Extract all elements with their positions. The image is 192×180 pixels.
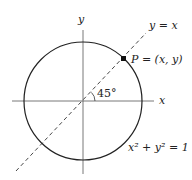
point-p-marker xyxy=(121,56,126,61)
y-axis-label: y xyxy=(77,13,85,26)
equation-label: x² + y² = 1 xyxy=(128,141,189,154)
unit-circle-diagram: y x y = x P = (x, y) 45° x² + y² = 1 xyxy=(0,0,192,180)
line-y-equals-x xyxy=(16,33,146,171)
angle-arc xyxy=(92,93,96,102)
angle-label: 45° xyxy=(97,87,117,100)
point-label: P = (x, y) xyxy=(130,53,183,66)
x-axis-label: x xyxy=(159,94,166,107)
line-label: y = x xyxy=(148,19,178,32)
